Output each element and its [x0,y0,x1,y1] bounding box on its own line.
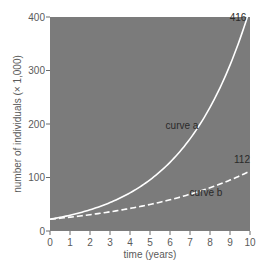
y-tick-label: 300 [28,65,45,76]
x-tick-label: 7 [187,237,193,248]
x-tick-label: 5 [147,237,153,248]
x-tick-label: 1 [67,237,73,248]
x-tick-label: 4 [127,237,133,248]
curve-label: curve b [190,187,223,198]
x-tick-label: 8 [207,237,213,248]
population-growth-chart: 0100200300400 012345678910 curve acurve … [0,0,267,273]
y-tick-label: 100 [28,172,45,183]
end-value-label: 416 [230,12,247,23]
y-tick-label: 200 [28,119,45,130]
x-axis: 012345678910 [47,231,256,248]
x-tick-label: 0 [47,237,53,248]
x-tick-label: 2 [87,237,93,248]
plot-area [50,17,250,231]
y-tick-label: 0 [39,226,45,237]
x-tick-label: 6 [167,237,173,248]
x-tick-label: 10 [244,237,256,248]
curve-label: curve a [166,120,199,131]
y-axis: 0100200300400 [28,12,50,237]
y-tick-label: 400 [28,12,45,23]
x-tick-label: 9 [227,237,233,248]
end-value-label: 112 [234,154,250,165]
x-axis-title: time (years) [124,249,177,260]
x-tick-label: 3 [107,237,113,248]
y-axis-title: number of individuals (× 1,000) [12,55,23,193]
